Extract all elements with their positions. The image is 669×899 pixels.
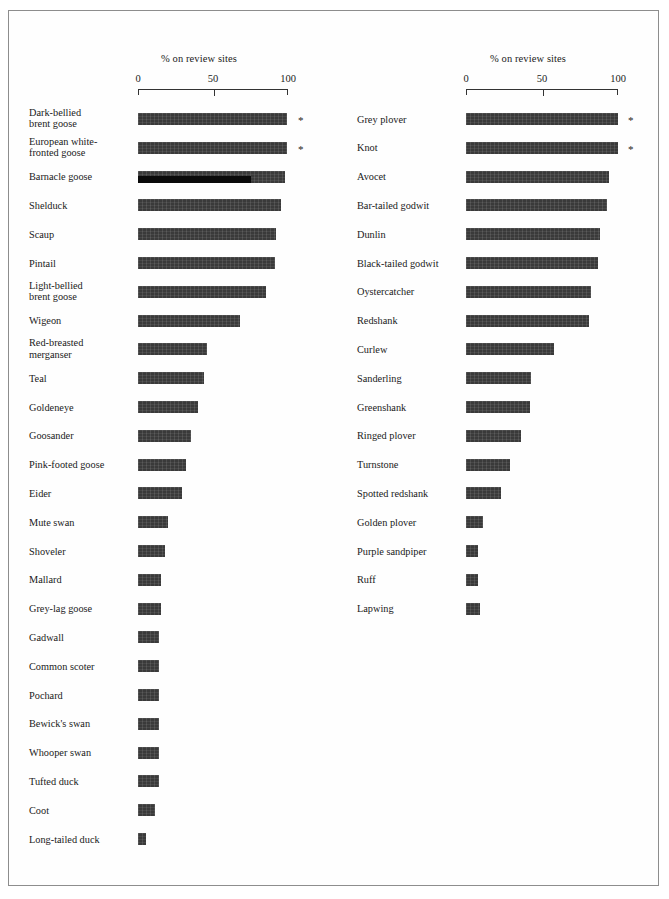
bar-row: Sanderling	[339, 358, 660, 387]
bar	[138, 545, 165, 557]
bar-row: Pochard	[9, 675, 339, 704]
bar-row: Goldeneye	[9, 387, 339, 416]
bar-row: Tufted duck	[9, 761, 339, 790]
bar	[466, 257, 598, 269]
bar-row: Bewick's swan	[9, 704, 339, 733]
bar-category-label: Golden plover	[357, 517, 459, 528]
bar-row: Light-bellied brent goose	[9, 272, 339, 301]
bar-category-label: Avocet	[357, 171, 459, 182]
chart-panel-waders: % on review sites 050100 Grey plover*Kno…	[339, 11, 660, 885]
bar-category-label: Shoveler	[29, 546, 131, 557]
bar-category-label: Teal	[29, 373, 131, 384]
x-tick-label-100: 100	[280, 73, 296, 84]
bar	[138, 286, 266, 298]
bar-row: Mallard	[9, 560, 339, 589]
bar-category-label: Sanderling	[357, 373, 459, 384]
bar-category-label: Eider	[29, 488, 131, 499]
bar-category-label: Dark-bellied brent goose	[29, 107, 131, 130]
bar-row: Dark-bellied brent goose*	[9, 99, 339, 128]
bar-category-label: European white- fronted goose	[29, 136, 131, 159]
bar	[466, 487, 501, 499]
bar	[466, 372, 531, 384]
bar-row: Shelduck	[9, 185, 339, 214]
bar-row: Grey plover*	[339, 99, 660, 128]
bar-row: Red-breasted merganser	[9, 329, 339, 358]
bar-category-label: Grey plover	[357, 114, 459, 125]
footnote-asterisk: *	[628, 115, 634, 126]
bar-row: Ringed plover	[339, 416, 660, 445]
bar	[466, 171, 609, 183]
bar	[466, 315, 589, 327]
bar	[138, 775, 159, 787]
chart-panel-wildfowl: % on review sites 050100 Dark-bellied br…	[9, 11, 339, 885]
bar-row: Teal	[9, 358, 339, 387]
bar-category-label: Ringed plover	[357, 430, 459, 441]
bar-row: Knot*	[339, 128, 660, 157]
bar-row: Common scoter	[9, 646, 339, 675]
bar-row: Bar-tailed godwit	[339, 185, 660, 214]
bar	[138, 516, 168, 528]
bar-category-label: Bar-tailed godwit	[357, 200, 459, 211]
bar-row: Barnacle goose	[9, 157, 339, 186]
bar-category-label: Spotted redshank	[357, 488, 459, 499]
bar	[138, 401, 198, 413]
bar	[466, 343, 554, 355]
bar	[138, 718, 159, 730]
bar	[138, 430, 191, 442]
bar-row: Curlew	[339, 329, 660, 358]
bar-category-label: Scaup	[29, 229, 131, 240]
bar-row: Turnstone	[339, 445, 660, 474]
bar	[466, 401, 530, 413]
bar-row: Mute swan	[9, 502, 339, 531]
bar-category-label: Goldeneye	[29, 402, 131, 413]
bar	[138, 372, 204, 384]
bar	[466, 603, 480, 615]
bar-row: European white- fronted goose*	[9, 128, 339, 157]
bar-row: Scaup	[9, 214, 339, 243]
bar-row: Eider	[9, 473, 339, 502]
bar-category-label: Knot	[357, 142, 459, 153]
bar-row: Greenshank	[339, 387, 660, 416]
footnote-asterisk: *	[628, 144, 634, 155]
bar-category-label: Oystercatcher	[357, 286, 459, 297]
bar-category-label: Greenshank	[357, 402, 459, 413]
bar-category-label: Curlew	[357, 344, 459, 355]
bar	[466, 459, 510, 471]
bar-category-label: Whooper swan	[29, 747, 131, 758]
bar	[138, 747, 159, 759]
footnote-asterisk: *	[298, 144, 304, 155]
bar-category-label: Long-tailed duck	[29, 834, 131, 845]
bar	[138, 113, 287, 125]
bar	[138, 603, 161, 615]
bar	[138, 343, 207, 355]
bar	[138, 833, 146, 845]
bar-category-label: Purple sandpiper	[357, 546, 459, 557]
bar	[466, 142, 618, 154]
bar-row: Coot	[9, 790, 339, 819]
axis-title-left: % on review sites	[161, 53, 237, 64]
bar	[138, 199, 281, 211]
bar-row: Wigeon	[9, 301, 339, 330]
bar-row: Shoveler	[9, 531, 339, 560]
x-tick-label-50: 50	[537, 73, 548, 84]
x-axis-line-left	[138, 89, 288, 95]
figure-frame: % on review sites 050100 Dark-bellied br…	[8, 10, 659, 886]
bar	[138, 315, 240, 327]
bar	[466, 430, 521, 442]
bar-row: Lapwing	[339, 589, 660, 618]
bar-category-label: Mallard	[29, 574, 131, 585]
bar-row: Black-tailed godwit	[339, 243, 660, 272]
bar-category-label: Tufted duck	[29, 776, 131, 787]
bar	[138, 631, 159, 643]
bar-category-label: Bewick's swan	[29, 718, 131, 729]
x-tick-label-0: 0	[463, 73, 468, 84]
bar-category-label: Pink-footed goose	[29, 459, 131, 470]
footnote-asterisk: *	[298, 115, 304, 126]
bar-category-label: Gadwall	[29, 632, 131, 643]
bar-row: Spotted redshank	[339, 473, 660, 502]
bar	[466, 199, 607, 211]
x-axis-midtick	[214, 90, 215, 96]
bar	[466, 228, 600, 240]
bar-category-label: Lapwing	[357, 603, 459, 614]
bar-row: Dunlin	[339, 214, 660, 243]
